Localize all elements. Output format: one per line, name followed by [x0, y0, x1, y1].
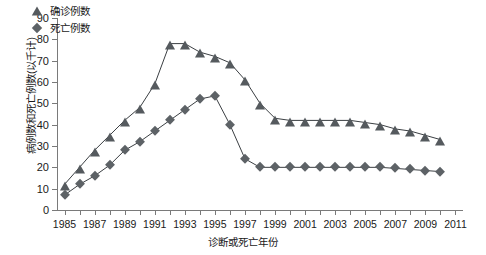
x-tick-mark — [260, 210, 261, 215]
y-tick-label: 10 — [37, 183, 49, 195]
legend-label-deaths: 死亡例数 — [50, 20, 90, 35]
x-tick-mark — [95, 210, 96, 215]
x-tick-label: 2009 — [414, 218, 437, 230]
y-tick-label: 60 — [37, 76, 49, 88]
x-tick-mark — [275, 210, 276, 215]
x-tick-mark — [365, 210, 366, 215]
legend-label-cases: 确诊例数 — [50, 3, 90, 18]
legend-item-cases: 确诊例数 — [30, 3, 90, 18]
x-tick-label: 1987 — [83, 218, 106, 230]
x-tick-mark — [440, 210, 441, 215]
legend-item-deaths: 死亡例数 — [30, 20, 90, 35]
x-tick-mark — [200, 210, 201, 215]
chart-figure: 病例数和死亡例数(以千计) 诊断或死亡年份 010203040506070809… — [0, 0, 486, 255]
x-tick-mark — [245, 210, 246, 215]
x-tick-mark — [125, 210, 126, 215]
y-tick-label: 50 — [37, 97, 49, 109]
x-tick-label: 2005 — [354, 218, 377, 230]
x-tick-mark — [80, 210, 81, 215]
x-tick-label: 2011 — [444, 218, 467, 230]
triangle-marker-icon — [30, 4, 44, 18]
x-tick-mark — [410, 210, 411, 215]
x-tick-mark — [305, 210, 306, 215]
diamond-marker-icon — [30, 21, 44, 35]
x-tick-label: 1997 — [233, 218, 256, 230]
series-lines — [57, 18, 463, 210]
x-tick-mark — [110, 210, 111, 215]
x-tick-label: 1991 — [143, 218, 166, 230]
x-tick-label: 2007 — [384, 218, 407, 230]
x-tick-mark — [185, 210, 186, 215]
x-axis-title: 诊断或死亡年份 — [0, 234, 486, 249]
y-tick-mark — [52, 210, 57, 211]
series-line-deaths — [65, 96, 441, 195]
y-tick-label: 30 — [37, 140, 49, 152]
x-tick-mark — [320, 210, 321, 215]
chart-legend: 确诊例数 死亡例数 — [30, 3, 90, 37]
y-tick-label: 40 — [37, 119, 49, 131]
x-tick-mark — [230, 210, 231, 215]
y-tick-label: 20 — [37, 161, 49, 173]
x-tick-label: 1995 — [203, 218, 226, 230]
x-tick-mark — [65, 210, 66, 215]
x-tick-label: 1989 — [113, 218, 136, 230]
y-tick-label: 0 — [43, 204, 49, 216]
x-tick-label: 1993 — [173, 218, 196, 230]
x-tick-mark — [395, 210, 396, 215]
x-tick-mark — [215, 210, 216, 215]
x-tick-mark — [290, 210, 291, 215]
plot-area: 0102030405060708090 19851987198919911993… — [57, 18, 463, 210]
x-tick-mark — [170, 210, 171, 215]
x-tick-label: 1999 — [263, 218, 286, 230]
x-tick-label: 2003 — [323, 218, 346, 230]
x-tick-label: 2001 — [293, 218, 316, 230]
x-tick-mark — [155, 210, 156, 215]
x-tick-label: 1985 — [53, 218, 76, 230]
x-tick-mark — [425, 210, 426, 215]
x-tick-mark — [455, 210, 456, 215]
x-tick-mark — [380, 210, 381, 215]
x-tick-mark — [350, 210, 351, 215]
y-tick-label: 70 — [37, 55, 49, 67]
x-tick-mark — [335, 210, 336, 215]
x-tick-mark — [140, 210, 141, 215]
